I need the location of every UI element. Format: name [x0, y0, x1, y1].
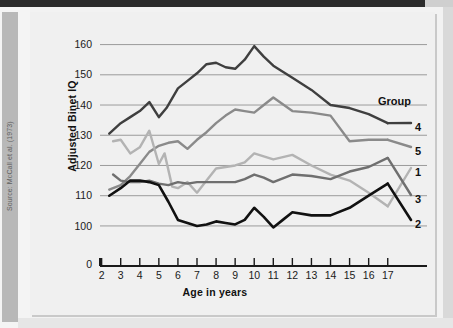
- x-tick-label: 8: [213, 269, 219, 281]
- source-credit: Source: McCall et al. (1973): [2, 91, 18, 211]
- legend-label-group-5: 5: [415, 145, 421, 157]
- x-tick-labels: 234567891011121314151617: [99, 269, 394, 281]
- y-axis-break-label: 0: [86, 258, 92, 270]
- series-line-group-2: [109, 181, 387, 228]
- x-tick-label: 3: [118, 269, 124, 281]
- x-tick-label: 6: [175, 269, 181, 281]
- series-lines: [109, 46, 387, 227]
- x-tick-label: 16: [363, 269, 375, 281]
- line-chart: 100110120130140150160 0 2345678910111213…: [30, 12, 435, 315]
- legend-line-stubs: [388, 123, 411, 220]
- legend-label-group-1: 1: [415, 166, 421, 178]
- x-tick-label: 2: [99, 269, 105, 281]
- chart-figure: 100110120130140150160 0 2345678910111213…: [30, 12, 435, 315]
- y-axis-title: Adjusted Binet IQ: [66, 56, 78, 196]
- series-line-group-4: [109, 46, 387, 134]
- series-line-group-3: [113, 158, 388, 185]
- x-tick-marks: [102, 258, 388, 265]
- legend-label-group-4: 4: [415, 121, 421, 133]
- legend-label-group-3: 3: [415, 193, 421, 205]
- page-top-bar-accent: [425, 0, 453, 7]
- x-tick-label: 5: [156, 269, 162, 281]
- x-tick-label: 9: [232, 269, 238, 281]
- x-tick-label: 14: [325, 269, 337, 281]
- x-tick-label: 13: [306, 269, 318, 281]
- x-tick-label: 10: [248, 269, 260, 281]
- series-line-group-5: [109, 97, 387, 189]
- legend-label-group-2: 2: [415, 218, 421, 230]
- x-tick-label: 15: [344, 269, 356, 281]
- page-top-bar: [0, 0, 453, 7]
- x-tick-label: 11: [268, 269, 279, 281]
- x-tick-label: 17: [382, 269, 394, 281]
- right-gutter: [443, 7, 453, 328]
- x-axis-title: Age in years: [30, 286, 400, 298]
- y-tick-label: 100: [74, 220, 92, 232]
- legend-leader-group-5: [388, 140, 411, 147]
- x-tick-label: 12: [287, 269, 299, 281]
- bottom-gutter: [18, 318, 453, 328]
- figure-page: Source: McCall et al. (1973) 10011012013…: [0, 0, 453, 328]
- x-tick-label: 7: [194, 269, 200, 281]
- legend-title: Group: [378, 95, 411, 107]
- series-line-group-1: [113, 131, 388, 207]
- y-tick-label: 160: [74, 38, 92, 50]
- x-tick-label: 4: [137, 269, 143, 281]
